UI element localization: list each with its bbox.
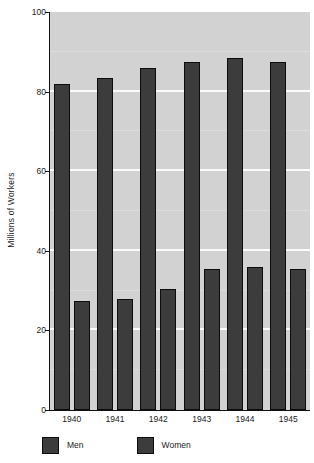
legend-label-women: Women: [162, 440, 191, 450]
bar-women-1945: [290, 269, 306, 410]
x-axis-tick-label: 1943: [192, 414, 211, 424]
plot-area: [50, 12, 310, 410]
bar-men-1943: [184, 62, 200, 410]
y-axis-tick-mark: [45, 171, 49, 172]
legend-entry-women: Women: [137, 437, 191, 454]
bar-men-1942: [140, 68, 156, 410]
bar-men-1941: [97, 78, 113, 410]
y-axis-tick-mark: [45, 92, 49, 93]
bar-women-1942: [160, 289, 176, 410]
y-axis-title-text: Millions of Workers: [6, 172, 16, 247]
y-axis-tick-label: 20: [22, 325, 46, 335]
x-axis-tick-label: 1944: [236, 414, 255, 424]
y-axis-spine: [49, 12, 50, 411]
bar-women-1944: [247, 267, 263, 410]
y-axis-tick-mark: [45, 410, 49, 411]
y-axis-tick-mark: [45, 330, 49, 331]
y-axis-tick-mark: [45, 12, 49, 13]
legend-entry-men: Men: [42, 437, 84, 454]
y-axis-tick-labels: 020406080100: [22, 0, 50, 463]
y-axis-tick-label: 40: [22, 246, 46, 256]
y-axis-tick-label: 80: [22, 87, 46, 97]
bar-women-1943: [204, 269, 220, 410]
y-axis-tick-label: 100: [22, 7, 46, 17]
legend-swatch-men: [42, 437, 59, 454]
chart-legend: Men Women: [42, 434, 191, 456]
x-axis-tick-label: 1945: [279, 414, 298, 424]
legend-label-men: Men: [67, 440, 84, 450]
y-axis-title: Millions of Workers: [0, 0, 22, 420]
x-axis-tick-label: 1940: [62, 414, 81, 424]
bar-chart-figure: Millions of Workers 020406080100 1940194…: [0, 0, 314, 463]
bar-men-1940: [54, 84, 70, 410]
y-axis-tick-label: 60: [22, 166, 46, 176]
legend-swatch-women: [137, 437, 154, 454]
bar-men-1944: [227, 58, 243, 410]
y-axis-tick-mark: [45, 251, 49, 252]
gridline-minor: [50, 51, 310, 52]
x-axis-tick-labels: 194019411942194319441945: [50, 414, 310, 430]
y-axis-tick-label: 0: [22, 405, 46, 415]
bar-women-1941: [117, 299, 133, 410]
bar-men-1945: [270, 62, 286, 410]
bar-women-1940: [74, 301, 90, 410]
x-axis-tick-label: 1941: [106, 414, 125, 424]
x-axis-spine: [49, 410, 310, 411]
x-axis-tick-label: 1942: [149, 414, 168, 424]
